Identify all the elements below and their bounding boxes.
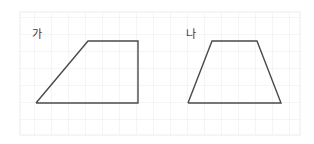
figure-canvas: 가 나 xyxy=(0,0,314,144)
shape-label-na: 나 xyxy=(186,28,196,41)
geometry-figure: 가 나 xyxy=(0,0,314,144)
shape-label-ga: 가 xyxy=(32,28,42,41)
grid-background xyxy=(20,12,300,135)
